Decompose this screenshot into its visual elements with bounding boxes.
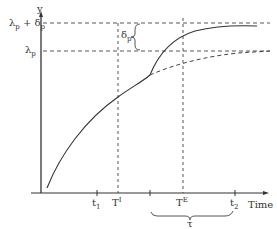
x-axis-arrow-icon <box>263 191 269 195</box>
label-sub: p <box>31 50 35 58</box>
label-T: T <box>112 197 119 208</box>
upper-bound-label: λp + δp <box>9 18 45 31</box>
label-T: T <box>176 197 183 208</box>
t2-label: t2 <box>230 198 239 211</box>
x-axis-label: Time <box>248 200 273 210</box>
delta-label: δp <box>121 30 132 43</box>
label-sub: p <box>41 23 45 31</box>
label-sup: E <box>183 196 188 204</box>
diagram-canvas <box>0 0 277 229</box>
response-curve-solid <box>47 26 257 188</box>
interval-label: τ <box>187 219 193 229</box>
lambda-label: λp <box>25 45 36 58</box>
label-sup: I <box>119 196 122 204</box>
y-axis-label: y <box>37 4 43 14</box>
label-sub: p <box>127 35 131 43</box>
TE-label: TE <box>176 197 188 208</box>
label-sub: 2 <box>234 203 238 211</box>
delta-brace <box>131 24 140 50</box>
response-curve-dashed <box>150 51 270 75</box>
TI-label: TI <box>112 197 121 208</box>
label-plus-delta: + δ <box>20 17 41 28</box>
label-sub: 1 <box>96 203 100 211</box>
t1-label: t1 <box>92 198 101 211</box>
